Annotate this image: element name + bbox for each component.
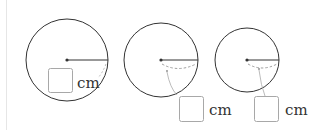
circle-2-radius-arc bbox=[162, 64, 196, 69]
circle-3-unit-label: cm bbox=[285, 101, 308, 119]
circles-diagram: cm cm cm bbox=[0, 0, 327, 130]
circle-1-answer-box[interactable] bbox=[49, 69, 73, 93]
circle-1-unit-label: cm bbox=[77, 74, 100, 92]
circle-3-answer-box[interactable] bbox=[255, 97, 279, 122]
circle-2-answer-box[interactable] bbox=[180, 97, 204, 122]
circle-2-unit-label: cm bbox=[209, 101, 232, 119]
circle-3-radius-arc bbox=[248, 64, 277, 68]
circle-3-pointer-line bbox=[259, 70, 265, 96]
circle-2-pointer-line bbox=[167, 72, 177, 95]
circle-2-group: cm bbox=[124, 23, 232, 122]
circle-3-pointer-dot bbox=[258, 68, 260, 70]
circle-1-group: cm bbox=[26, 19, 108, 101]
circle-2-pointer-dot bbox=[166, 70, 168, 72]
